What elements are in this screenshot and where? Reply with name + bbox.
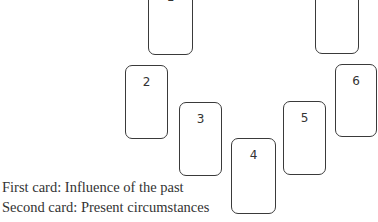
card-5: 5 [283,101,326,175]
caption-second-card: Second card: Present circumstances [2,200,209,215]
card-number: 4 [232,148,275,162]
card-3: 3 [179,102,222,176]
card-number: 7 [316,0,358,3]
card-7: 7 [315,0,359,54]
card-1: 1 [148,0,193,55]
card-number: 5 [284,111,325,125]
card-6: 6 [335,64,377,137]
caption-first-card: First card: Influence of the past [2,180,184,195]
card-number: 1 [149,0,192,4]
card-2: 2 [125,65,168,139]
card-number: 6 [336,74,376,88]
card-number: 2 [126,75,167,89]
card-number: 3 [180,112,221,126]
card-4: 4 [231,138,276,214]
